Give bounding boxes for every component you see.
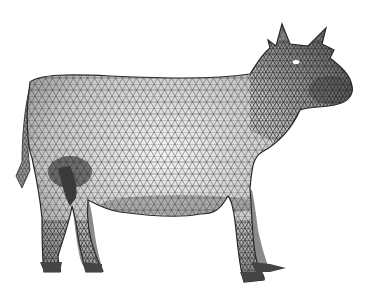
cow-mesh-illustration <box>0 0 366 308</box>
eye <box>293 60 300 64</box>
